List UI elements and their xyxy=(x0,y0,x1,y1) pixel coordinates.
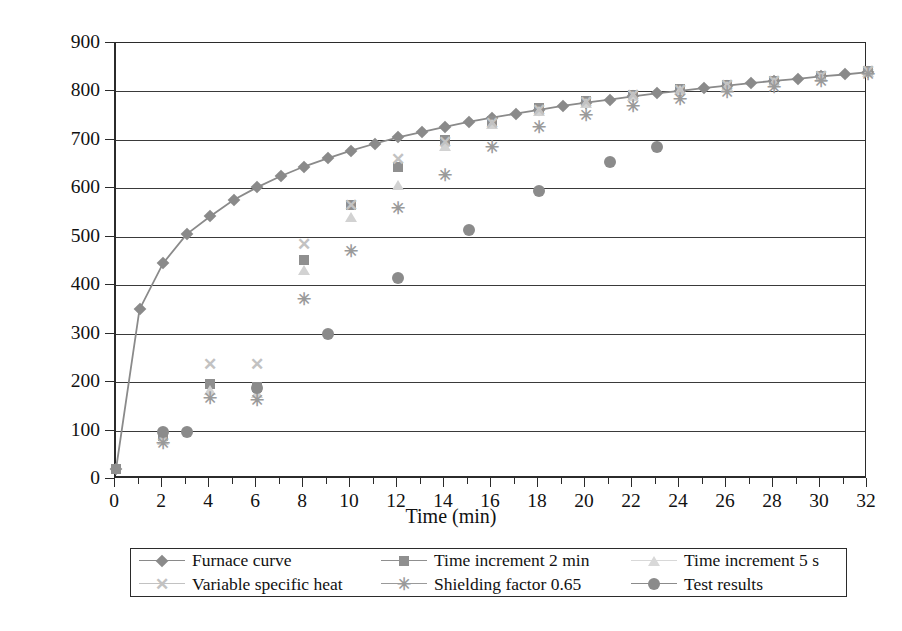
x-tick-mark-major xyxy=(725,478,726,487)
series-line-0 xyxy=(116,72,868,469)
furnace-curve-line xyxy=(116,43,868,479)
legend-label: Furnace curve xyxy=(192,550,292,571)
legend-label: Shielding factor 0.65 xyxy=(434,574,581,595)
x-tick-mark-major xyxy=(161,478,162,487)
legend-item[interactable]: Furnace curve xyxy=(139,550,381,571)
legend-item[interactable]: ✕Variable specific heat xyxy=(139,574,381,595)
legend-marker: ✳ xyxy=(397,576,411,593)
legend-circle-icon xyxy=(631,576,677,592)
legend-item[interactable]: Time increment 5 s xyxy=(631,550,838,571)
legend-line xyxy=(381,560,427,561)
legend-marker xyxy=(156,554,169,567)
legend-line xyxy=(631,560,677,561)
chart-figure: Temperature (°C) 01002003004005006007008… xyxy=(0,0,902,631)
x-tick-mark-major xyxy=(349,478,350,487)
x-axis-title: Time (min) xyxy=(0,505,902,528)
legend-label: Time increment 2 min xyxy=(434,550,589,571)
x-tick-mark-major xyxy=(819,478,820,487)
legend-triangle-icon xyxy=(631,553,677,569)
x-tick-mark-major xyxy=(302,478,303,487)
x-tick-mark-major xyxy=(537,478,538,487)
chart-legend: Furnace curveTime increment 2 minTime in… xyxy=(130,548,847,597)
plot-area: ✕✕✕✕✕✕✕✕✕✕✕✕✕✕✕✕✳✳✳✳✳✳✳✳✳✳✳✳✳✳✳✳ xyxy=(114,42,866,478)
x-tick-mark-major xyxy=(678,478,679,487)
legend-label: Variable specific heat xyxy=(192,574,343,595)
x-tick-mark-major xyxy=(490,478,491,487)
legend-item[interactable]: Time increment 2 min xyxy=(381,550,631,571)
legend-line xyxy=(631,583,677,584)
legend-diamond-icon xyxy=(139,553,185,569)
legend-item[interactable]: Test results xyxy=(631,574,838,595)
legend-label: Test results xyxy=(684,574,763,595)
legend-label: Time increment 5 s xyxy=(684,550,819,571)
legend-line xyxy=(381,583,427,584)
legend-marker xyxy=(399,556,409,566)
legend-star-icon: ✳ xyxy=(381,576,427,592)
x-tick-mark-major xyxy=(631,478,632,487)
x-tick-mark-major xyxy=(443,478,444,487)
legend-square-icon xyxy=(381,553,427,569)
x-tick-mark-major xyxy=(772,478,773,487)
legend-line xyxy=(139,583,185,584)
x-tick-mark-major xyxy=(396,478,397,487)
x-tick-mark-major xyxy=(255,478,256,487)
legend-item[interactable]: ✳Shielding factor 0.65 xyxy=(381,574,631,595)
x-tick-mark-major xyxy=(584,478,585,487)
legend-line xyxy=(139,560,185,561)
legend-marker xyxy=(648,556,660,566)
x-tick-mark-major xyxy=(866,478,867,487)
x-tick-mark-major xyxy=(208,478,209,487)
legend-marker xyxy=(648,578,660,590)
legend-x-icon: ✕ xyxy=(139,576,185,592)
legend-marker: ✕ xyxy=(155,576,169,593)
x-tick-mark-major xyxy=(114,478,115,487)
